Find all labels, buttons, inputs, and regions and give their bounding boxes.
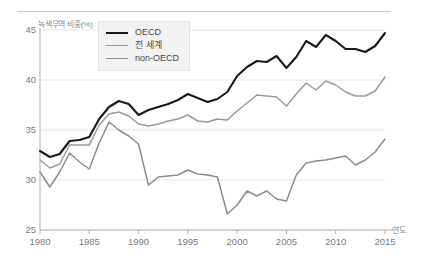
x-tick-label: 2005 xyxy=(276,236,297,248)
header-divider xyxy=(17,11,391,12)
legend-label: OECD xyxy=(135,27,161,38)
y-tick-label: 35 xyxy=(14,125,36,135)
plot-svg xyxy=(40,30,385,230)
legend-label: 전 세계 xyxy=(135,40,162,51)
x-tick-label: 1980 xyxy=(29,236,50,248)
y-axis-title: 녹색무역 비중(%) xyxy=(38,18,93,29)
chart-legend: OECD전 세계non-OECD xyxy=(98,21,190,71)
x-tick-label: 2010 xyxy=(325,236,346,248)
legend-line-icon xyxy=(106,45,128,46)
legend-label: non-OECD xyxy=(135,53,179,64)
legend-line-icon xyxy=(106,32,128,34)
y-axis-tick-labels: 2530354045 xyxy=(8,30,36,230)
x-tick-label: 1995 xyxy=(177,236,198,248)
y-tick-label: 30 xyxy=(14,175,36,185)
x-tick-label: 1990 xyxy=(128,236,149,248)
series-line-non-oecd xyxy=(40,122,385,214)
plot-area xyxy=(40,30,385,230)
x-tick-label: 2015 xyxy=(374,236,395,248)
y-tick-label: 25 xyxy=(14,225,36,235)
y-tick-label: 45 xyxy=(14,25,36,35)
x-tick-label: 2000 xyxy=(227,236,248,248)
legend-line-icon xyxy=(106,58,128,59)
legend-item: OECD xyxy=(106,26,179,39)
series-line-전-세계 xyxy=(40,77,385,168)
legend-item: non-OECD xyxy=(106,52,179,65)
legend-item: 전 세계 xyxy=(106,39,179,52)
x-axis-title: 연도 xyxy=(392,224,406,235)
x-axis-tick-labels: 19801985199019952000200520102015 xyxy=(40,236,385,252)
chart-figure: 녹색무역 비중(%) 연도 2530354045 198019851990199… xyxy=(0,0,425,273)
y-tick-label: 40 xyxy=(14,75,36,85)
x-tick-label: 1985 xyxy=(79,236,100,248)
